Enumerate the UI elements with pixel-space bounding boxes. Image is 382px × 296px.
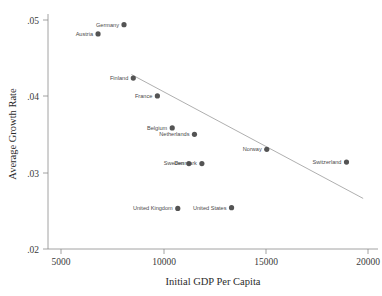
data-point-label: Norway [243,146,262,152]
data-point-label: Switzerland [313,159,342,165]
data-point-marker[interactable] [344,160,349,165]
y-axis: .05 .04 .03 .02 Average Growth Rate [7,14,48,255]
y-tick-label: .04 [27,92,39,102]
data-point[interactable]: Switzerland [313,159,350,165]
x-axis-title: Initial GDP Per Capita [166,276,261,287]
data-point[interactable]: United Kingdom [133,205,180,211]
data-point[interactable]: Netherlands [159,131,197,137]
data-point[interactable]: Belgium [147,125,175,131]
x-tick-label: 5000 [52,257,71,267]
data-point-marker[interactable] [175,206,180,211]
data-point-marker[interactable] [229,205,234,210]
data-point-marker[interactable] [155,93,160,98]
scatter-chart: .05 .04 .03 .02 Average Growth Rate 5000… [0,0,382,296]
data-points-layer: GermanyAustriaFinlandFranceBelgiumNether… [76,22,349,212]
data-point-label: Denmark [174,160,197,166]
x-tick-label: 10000 [152,257,176,267]
data-point[interactable]: Norway [243,146,270,152]
data-point[interactable]: France [135,93,160,99]
x-tick-label: 20000 [356,257,380,267]
chart-canvas: .05 .04 .03 .02 Average Growth Rate 5000… [0,0,382,296]
data-point[interactable]: Germany [96,22,127,28]
data-point-marker[interactable] [121,22,126,27]
data-point[interactable]: Finland [110,75,136,81]
data-point-label: Finland [110,75,128,81]
y-axis-title: Average Growth Rate [7,88,18,180]
data-point-marker[interactable] [131,75,136,80]
data-point-label: United States [193,205,227,211]
data-point-marker[interactable] [170,125,175,130]
y-tick-label: .02 [27,245,39,255]
data-point-marker[interactable] [95,31,100,36]
data-point[interactable]: United States [193,205,234,211]
y-tick-label: .05 [27,16,39,26]
data-point[interactable]: Denmark [174,160,204,166]
data-point-label: France [135,93,152,99]
x-axis: 5000 10000 15000 20000 Initial GDP Per C… [48,249,380,287]
data-point-marker[interactable] [192,132,197,137]
y-axis-ticks [43,20,48,249]
data-point-label: Belgium [147,125,168,131]
data-point-label: Netherlands [159,131,189,137]
data-point-marker[interactable] [264,147,269,152]
x-tick-label: 15000 [254,257,278,267]
data-point-label: Germany [96,22,119,28]
data-point-label: United Kingdom [133,205,173,211]
data-point-marker[interactable] [199,161,204,166]
data-point[interactable]: Austria [76,31,101,37]
data-point-label: Austria [76,31,94,37]
y-tick-label: .03 [27,169,39,179]
x-axis-ticks [61,249,368,254]
